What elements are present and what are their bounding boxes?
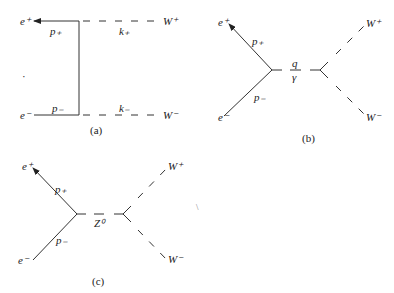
e-plus-label: e⁺ xyxy=(20,15,32,27)
w-minus-line xyxy=(336,86,365,115)
w-plus-line xyxy=(138,168,167,198)
q-label: q xyxy=(292,57,298,69)
e-plus-label: e⁺ xyxy=(218,16,230,28)
w-plus-stub xyxy=(123,206,131,214)
diagram-a: e⁺ e⁻ p₊ p₋ k₊ k₋ W⁺ W⁻ (a) · xyxy=(20,15,179,137)
e-plus-label: e⁺ xyxy=(22,160,34,172)
gamma-label: γ xyxy=(292,71,297,83)
stray-mark: · xyxy=(22,70,26,82)
w-plus-stub xyxy=(320,62,328,70)
positron-line xyxy=(229,24,272,70)
w-minus-label: W⁻ xyxy=(168,253,184,265)
p-plus-label: p₊ xyxy=(54,183,67,195)
k-plus-label: k₊ xyxy=(119,25,130,37)
p-minus-label: p₋ xyxy=(253,91,266,103)
w-plus-label: W⁺ xyxy=(168,160,184,172)
w-minus-label: W⁻ xyxy=(366,111,382,123)
k-minus-label: k₋ xyxy=(119,102,130,114)
w-minus-label: W⁻ xyxy=(163,109,179,121)
e-minus-label: e⁻ xyxy=(18,254,30,266)
w-plus-label: W⁺ xyxy=(163,15,179,27)
e-minus-label: e⁻ xyxy=(218,111,230,123)
w-plus-line xyxy=(336,25,365,54)
electron-line xyxy=(33,214,77,260)
stray-mark: \ xyxy=(196,202,199,212)
diagram-c: e⁺ e⁻ p₊ p₋ Z⁰ W⁺ W⁻ (c) \ xyxy=(18,160,199,288)
caption-a: (a) xyxy=(90,124,103,137)
caption-c: (c) xyxy=(92,275,105,288)
p-plus-label: p₊ xyxy=(49,25,62,37)
diagram-b: e⁺ e⁻ p₊ p₋ q γ W⁺ W⁻ (b) xyxy=(218,16,382,145)
w-plus-label: W⁺ xyxy=(366,17,382,29)
p-minus-label: p₋ xyxy=(51,102,64,114)
w-minus-stub xyxy=(320,70,328,78)
p-minus-label: p₋ xyxy=(55,234,68,246)
w-minus-line xyxy=(138,230,167,260)
e-minus-label: e⁻ xyxy=(20,109,32,121)
p-plus-label: p₊ xyxy=(251,35,264,47)
z0-label: Z⁰ xyxy=(94,217,106,229)
w-minus-stub xyxy=(123,214,131,222)
caption-b: (b) xyxy=(302,132,315,145)
feynman-diagrams: e⁺ e⁻ p₊ p₋ k₊ k₋ W⁺ W⁻ (a) · e⁺ e⁻ p₊ p… xyxy=(0,0,394,293)
